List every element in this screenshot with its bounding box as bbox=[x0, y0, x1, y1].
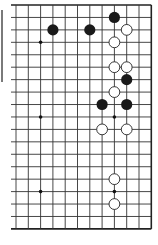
star-point bbox=[39, 115, 43, 119]
white-stone bbox=[109, 37, 120, 48]
black-stone bbox=[84, 24, 95, 35]
white-stone bbox=[109, 62, 120, 73]
white-stone bbox=[109, 174, 120, 185]
star-point bbox=[113, 115, 117, 119]
black-stone bbox=[121, 99, 132, 110]
star-point bbox=[39, 41, 43, 45]
star-point bbox=[39, 190, 43, 194]
white-stone bbox=[109, 199, 120, 210]
go-board-diagram bbox=[0, 0, 158, 245]
white-stone bbox=[121, 124, 132, 135]
star-point bbox=[113, 190, 117, 194]
white-stone bbox=[97, 124, 108, 135]
white-stone bbox=[121, 62, 132, 73]
white-stone bbox=[121, 24, 132, 35]
black-stone bbox=[109, 12, 120, 23]
black-stone bbox=[97, 99, 108, 110]
white-stone bbox=[109, 87, 120, 98]
black-stone bbox=[47, 24, 58, 35]
black-stone bbox=[121, 74, 132, 85]
go-board bbox=[0, 0, 158, 245]
